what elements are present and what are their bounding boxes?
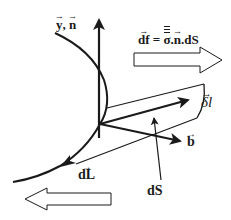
delta-l-vector (100, 100, 188, 124)
y-vector-label: y (56, 18, 63, 31)
b-vector-label: b (187, 135, 195, 149)
y-n-label: y, n (56, 18, 76, 31)
sigma-tensor-label: σ (163, 33, 170, 46)
n-vector-label: n (69, 18, 76, 31)
surface-element-dS (76, 84, 204, 164)
dL-vector-label: dL (78, 168, 95, 182)
dS-text: dS (147, 183, 163, 198)
b-label: b (187, 135, 195, 149)
b-vector (100, 124, 180, 141)
delta-l-vector-label: δl (201, 95, 212, 110)
equals-sign: = (150, 32, 164, 47)
n-vector-in-equation: n (174, 33, 181, 46)
hollow-arrow-left (25, 188, 111, 210)
contour-curve (13, 33, 107, 182)
delta-l-label: δl (201, 95, 212, 110)
dS-in-equation: .dS (181, 32, 199, 47)
dS-pointer-arrow (154, 118, 161, 180)
dL-label: dL (78, 168, 95, 182)
force-hollow-arrow-right (134, 47, 222, 73)
force-equation-label: df = σ.n.dS (138, 33, 199, 46)
dS-label: dS (147, 184, 163, 198)
df-label: df (138, 33, 150, 46)
